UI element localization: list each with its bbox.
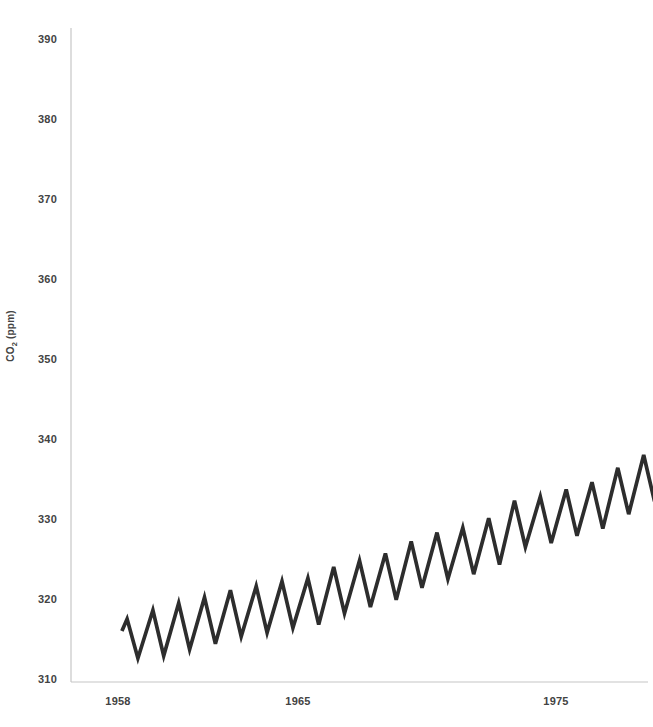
y-tick-label: 390 [19,32,57,46]
y-tick-label: 370 [19,192,57,206]
y-tick-label: 350 [19,352,57,366]
x-tick-label: 1975 [526,694,586,708]
x-tick-label: 1965 [268,694,328,708]
y-axis-title-main: CO [5,346,16,361]
y-tick-label: 340 [19,432,57,446]
plot-area [0,0,653,727]
co2-trend-line [122,455,653,658]
y-tick-label: 330 [19,512,57,526]
y-tick-label: 320 [19,592,57,606]
y-axis-title: CO2 (ppm) [5,310,19,362]
y-tick-label: 380 [19,112,57,126]
y-tick-label: 360 [19,272,57,286]
y-tick-label: 310 [19,672,57,686]
y-axis-title-unit: (ppm) [5,310,16,342]
y-axis-title-sub: 2 [10,342,19,346]
co2-chart: 390 380 370 360 350 340 330 320 310 1958… [0,0,653,727]
x-tick-label: 1958 [88,694,148,708]
